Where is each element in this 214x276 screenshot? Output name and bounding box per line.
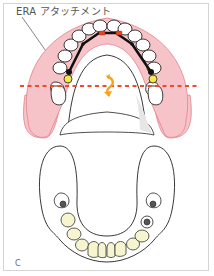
bar-joint-right: [148, 69, 154, 75]
attachment-red-left: [99, 31, 105, 35]
implant-left: [60, 201, 66, 207]
lower-tooth: [135, 230, 149, 242]
lower-arch: [39, 146, 174, 262]
lower-tooth-incisor: [98, 243, 106, 258]
lower-tooth-incisor: [88, 242, 99, 258]
lower-tooth: [67, 228, 81, 240]
attachment-red-right: [116, 31, 122, 35]
era-attachment-label: ERA アタッチメント: [16, 3, 111, 18]
upper-tooth-rear-left: [51, 86, 66, 105]
implant-right-anterior: [144, 219, 150, 225]
panel-letter: C: [15, 259, 21, 268]
bar-joint: [130, 42, 134, 46]
upper-tooth-rear-right: [148, 86, 163, 105]
era-attachment-right: [149, 75, 157, 83]
implant-right-posterior: [150, 201, 156, 207]
bar-joint: [81, 42, 85, 46]
lower-tooth-incisor: [107, 243, 115, 258]
lower-tooth: [76, 239, 89, 251]
bar-joint-left: [66, 69, 72, 75]
lower-tooth-incisor: [115, 242, 126, 257]
dental-illustration: [0, 0, 214, 276]
upper-tooth: [53, 62, 67, 74]
lower-tooth: [61, 213, 75, 227]
era-attachment-left: [64, 75, 72, 83]
upper-tooth: [93, 20, 107, 32]
upper-tooth: [58, 50, 72, 62]
upper-tooth: [136, 39, 150, 51]
